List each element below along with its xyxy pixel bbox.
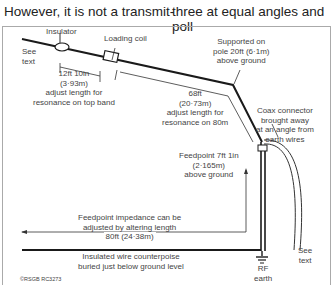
insulator-label: Insulator — [46, 27, 77, 37]
coax-label: Coax connectorbrought awayat an angle fr… — [256, 106, 314, 144]
coax-cable — [264, 140, 302, 250]
see-text-right-label: Seetext — [298, 246, 312, 265]
impedance-label: Feedpoint impedance can beadjusted by al… — [78, 213, 181, 242]
rf-earth-label: RFearth — [254, 264, 272, 283]
see-text-left-label: Seetext — [22, 47, 36, 66]
eighty-m-label: 68ft(20·73m)adjust length forresonance o… — [162, 89, 228, 127]
feedpoint-label: Feedpoint 7ft 1in(2·165m)above ground — [179, 151, 239, 180]
copyright-label: ©RSGB RC3273 — [20, 275, 61, 285]
insulator-icon — [55, 43, 69, 51]
supported-label: Supported onpole 20ft (6·1m)above ground — [213, 37, 269, 66]
counterpoise-label: Insulated wire counterpoiseburied just b… — [78, 252, 184, 271]
loading-coil-label: Loading coil — [104, 34, 147, 44]
loading-coil-icon — [103, 51, 119, 63]
coax-connector-icon — [258, 145, 267, 151]
top-band-label: 12ft 10in(3·93m)adjust length forresonan… — [33, 69, 115, 107]
